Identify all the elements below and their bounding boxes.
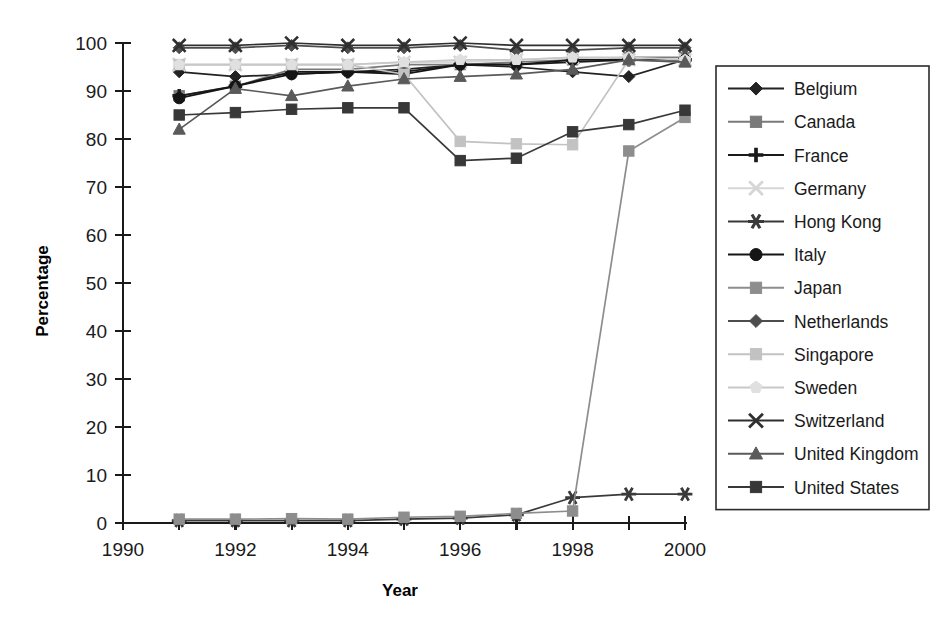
- y-axis-tick-label: 40: [86, 321, 107, 342]
- legend-item-label: Netherlands: [794, 312, 889, 332]
- y-axis-tick-label: 70: [86, 177, 107, 198]
- y-axis-tick-label: 60: [86, 225, 107, 246]
- legend-item-belgium[interactable]: Belgium: [718, 74, 927, 104]
- y-axis-tick-label: 0: [96, 513, 107, 534]
- y-axis-title: Percentage: [33, 245, 52, 337]
- x-axis-tick-label: 1990: [102, 539, 144, 560]
- data-point-marker: [567, 140, 577, 150]
- series-japan: [174, 112, 690, 524]
- legend: BelgiumCanadaFranceGermanyHong KongItaly…: [716, 66, 929, 510]
- data-point-marker: [511, 153, 521, 163]
- legend-item-label: Belgium: [794, 79, 857, 99]
- x-axis-tick-label: 1992: [214, 539, 256, 560]
- data-point-marker: [511, 508, 521, 518]
- data-point-marker: [623, 71, 635, 83]
- legend-item-united-kingdom[interactable]: United Kingdom: [718, 439, 927, 469]
- data-point-marker: [455, 511, 465, 521]
- data-point-marker: [286, 104, 296, 114]
- data-point-marker: [174, 110, 184, 120]
- series-line: [179, 60, 685, 145]
- legend-item-label: United States: [794, 478, 899, 498]
- legend-item-switzerland[interactable]: Switzerland: [718, 406, 927, 436]
- legend-item-label: Canada: [794, 112, 856, 132]
- series-united-states: [174, 103, 690, 166]
- data-point-marker: [567, 506, 577, 516]
- data-point-marker: [174, 514, 184, 524]
- series-line: [179, 117, 685, 519]
- legend-item-label: Japan: [794, 278, 842, 298]
- legend-item-japan[interactable]: Japan: [718, 273, 927, 303]
- data-point-marker: [455, 155, 465, 165]
- series-united-kingdom: [173, 53, 691, 134]
- series-line: [179, 108, 685, 161]
- legend-item-label: Sweden: [794, 378, 857, 398]
- series-switzerland: [173, 37, 692, 52]
- y-axis-tick-label: 90: [86, 81, 107, 102]
- y-axis-tick-label: 20: [86, 417, 107, 438]
- data-point-marker: [565, 491, 580, 504]
- series-hong-kong: [172, 488, 693, 527]
- data-point-marker: [455, 54, 466, 64]
- data-point-marker: [343, 103, 353, 113]
- legend-item-label: France: [794, 146, 848, 166]
- legend-item-label: Singapore: [794, 345, 874, 365]
- y-axis-tick-label: 80: [86, 129, 107, 150]
- x-axis-tick-label: 1994: [327, 539, 370, 560]
- x-axis-tick-label: 1998: [551, 539, 593, 560]
- y-axis-title-text: Percentage: [33, 245, 52, 337]
- legend-item-italy[interactable]: Italy: [718, 240, 927, 270]
- data-point-marker: [455, 136, 465, 146]
- chart-canvas: Percentage Year 010203040506070809010019…: [0, 0, 941, 617]
- x-axis-title-text: Year: [382, 581, 418, 600]
- x-axis-tick-label: 1996: [439, 539, 481, 560]
- data-point-marker: [750, 249, 762, 261]
- data-point-marker: [173, 123, 185, 134]
- legend-item-label: Italy: [794, 245, 826, 265]
- data-point-marker: [286, 513, 296, 523]
- legend-item-canada[interactable]: Canada: [718, 107, 927, 137]
- data-point-marker: [343, 514, 353, 524]
- legend-item-singapore[interactable]: Singapore: [718, 339, 927, 369]
- y-axis-tick-label: 10: [86, 465, 107, 486]
- data-point-marker: [621, 488, 636, 501]
- legend-item-label: United Kingdom: [794, 444, 919, 464]
- legend-item-hong-kong[interactable]: Hong Kong: [718, 206, 927, 236]
- legend-item-sweden[interactable]: Sweden: [718, 372, 927, 402]
- data-point-marker: [567, 127, 577, 137]
- data-point-marker: [750, 481, 761, 492]
- data-point-marker: [750, 282, 761, 293]
- data-point-marker: [511, 139, 521, 149]
- y-axis-tick-label: 100: [75, 33, 107, 54]
- data-point-marker: [624, 119, 634, 129]
- y-axis-tick-label: 50: [86, 273, 107, 294]
- series-netherlands: [173, 39, 691, 56]
- data-point-marker: [399, 512, 409, 522]
- data-point-marker: [624, 146, 634, 156]
- data-point-marker: [399, 103, 409, 113]
- x-axis-tick-label: 2000: [664, 539, 706, 560]
- y-axis-tick-label: 30: [86, 369, 107, 390]
- legend-item-netherlands[interactable]: Netherlands: [718, 306, 927, 336]
- axes: 0102030405060708090100199019921994199619…: [75, 33, 706, 560]
- data-point-marker: [750, 349, 761, 360]
- legend-item-france[interactable]: France: [718, 140, 927, 170]
- data-point-marker: [174, 93, 185, 104]
- data-point-marker: [230, 514, 240, 524]
- series-line: [179, 43, 685, 45]
- legend-item-label: Hong Kong: [794, 212, 882, 232]
- data-point-marker: [680, 105, 690, 115]
- legend-item-germany[interactable]: Germany: [718, 173, 927, 203]
- line-chart: Percentage Year 010203040506070809010019…: [0, 0, 941, 617]
- data-point-marker: [678, 488, 693, 501]
- series-lines: [172, 37, 693, 527]
- data-point-marker: [750, 116, 761, 127]
- legend-item-label: Switzerland: [794, 411, 884, 431]
- legend-item-label: Germany: [794, 179, 866, 199]
- series-line: [179, 60, 685, 98]
- data-point-marker: [230, 107, 240, 117]
- legend-item-united-states[interactable]: United States: [718, 472, 927, 502]
